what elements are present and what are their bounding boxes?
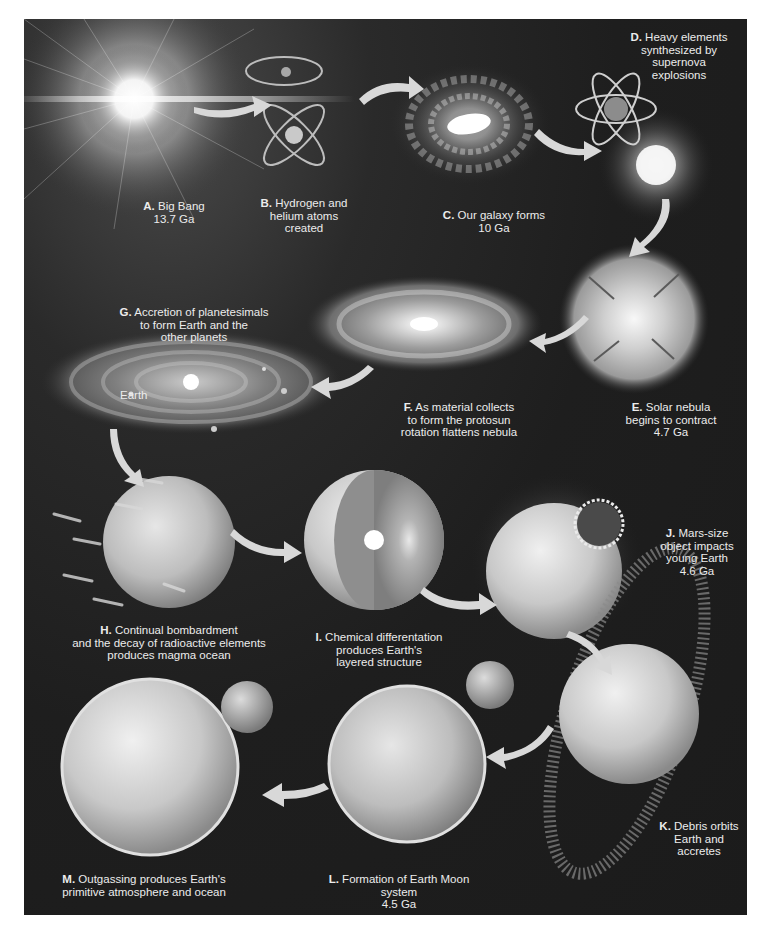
arrow-k-to-l-icon — [486, 725, 554, 769]
bombarded-planet-icon — [54, 476, 235, 608]
arrow-g-to-h-icon — [110, 429, 144, 487]
stage-a-label: A. Big Bang 13.7 Ga — [119, 200, 229, 225]
figure-panel: A. Big Bang 13.7 Ga B. Hydrogen and heli… — [24, 19, 747, 915]
arrow-h-to-i-icon — [230, 529, 302, 563]
illustration-layer — [24, 19, 747, 915]
atom-orbits-icon — [246, 57, 332, 173]
stage-f-label: F. As material collects to form the prot… — [389, 401, 529, 439]
flattened-disk-icon — [306, 276, 542, 372]
stage-d-label: D. Heavy elements synthesized by superno… — [614, 31, 744, 81]
stage-i-label: I. Chemical differentation produces Eart… — [314, 631, 444, 669]
stage-b-label: B. Hydrogen and helium atoms created — [249, 197, 359, 235]
stage-c-label: C. Our galaxy forms 10 Ga — [434, 209, 554, 234]
stage-g-label: G. Accretion of planetesimals to form Ea… — [114, 306, 274, 344]
arrow-l-to-m-icon — [262, 783, 329, 807]
planetary-disk-icon — [41, 330, 341, 434]
impact-planet-icon — [470, 473, 642, 645]
stage-j-label: J. Mars-size object impacts young Earth … — [652, 527, 742, 577]
earth-sublabel: Earth — [120, 389, 160, 402]
supernova-atom-icon — [576, 67, 714, 223]
stage-e-label: E. Solar nebula begins to contract 4.7 G… — [616, 401, 726, 439]
earth-atmosphere-icon — [62, 679, 273, 855]
stage-h-label: H. Continual bombardment and the decay o… — [69, 624, 269, 662]
stage-l-label: L. Formation of Earth Moon system 4.5 Ga — [309, 873, 489, 911]
stage-m-label: M. Outgassing produces Earth's primitive… — [59, 873, 229, 898]
earth-moon-system-icon — [329, 661, 514, 842]
stage-k-label: K. Debris orbits Earth and accretes — [654, 820, 744, 858]
